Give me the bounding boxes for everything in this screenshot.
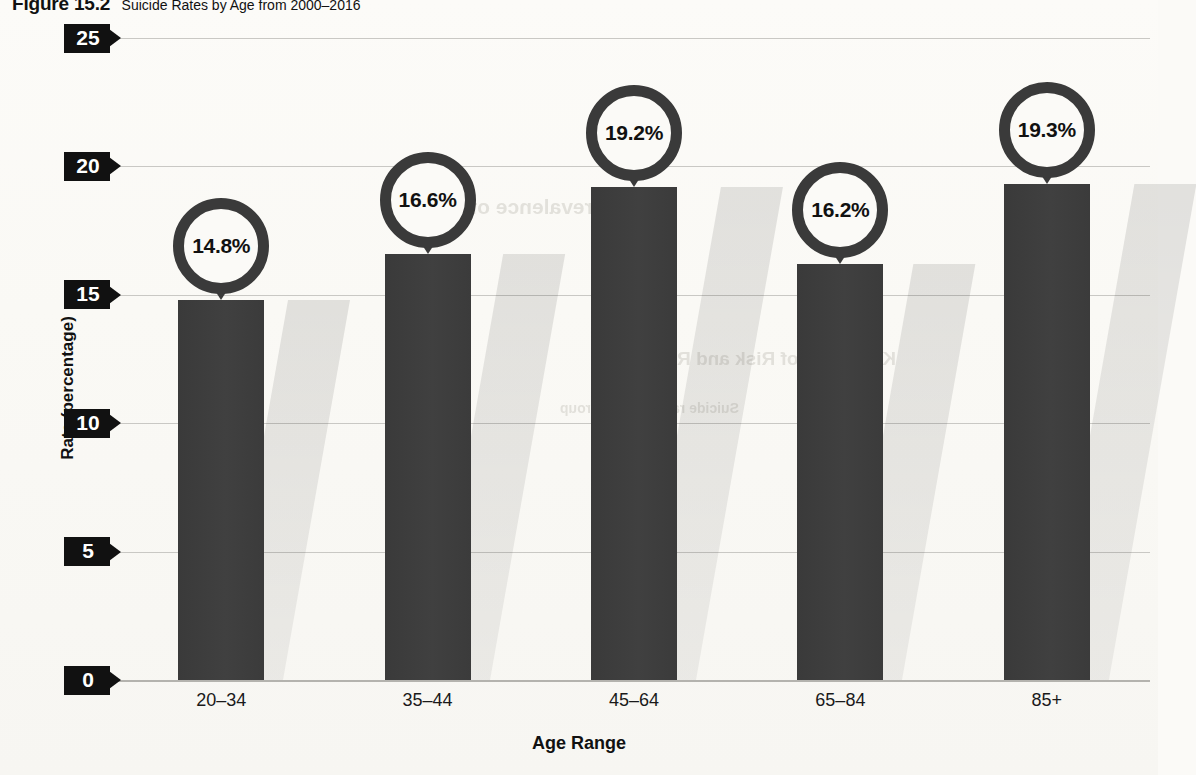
plot-area: 0510152025 14.8%16.6%19.2%16.2%19.3% (118, 38, 1150, 680)
x-axis-tick-label: 45–64 (531, 690, 737, 711)
data-label-pin: 19.2% (586, 85, 682, 181)
x-axis-tick-label: 65–84 (737, 690, 943, 711)
y-axis-tick-label: 20 (64, 152, 110, 181)
data-label-pin: 16.2% (792, 162, 888, 258)
y-axis-tick-label: 15 (64, 280, 110, 309)
bar-fill (1004, 184, 1090, 680)
x-axis-tick-label: 20–34 (118, 690, 324, 711)
y-axis-tick: 10 (64, 408, 110, 438)
data-label-pin: 14.8% (173, 198, 269, 294)
y-axis-tick-label: 10 (64, 409, 110, 438)
data-label-pin: 19.3% (999, 82, 1095, 178)
data-label-value: 16.6% (380, 152, 476, 248)
y-axis-tick: 15 (64, 280, 110, 310)
x-axis-tick-label: 85+ (944, 690, 1150, 711)
data-label-value: 19.3% (999, 82, 1095, 178)
bar-fill (591, 187, 677, 680)
bar (385, 254, 471, 680)
data-label-pin: 16.6% (380, 152, 476, 248)
y-axis-tick: 5 (64, 537, 110, 567)
y-axis-tick-label: 25 (64, 24, 110, 53)
x-axis-tick-label: 35–44 (324, 690, 530, 711)
bar-fill (797, 264, 883, 680)
data-label-value: 16.2% (792, 162, 888, 258)
bar (591, 187, 677, 680)
bar (178, 300, 264, 680)
gridline (118, 680, 1150, 682)
y-axis-tick: 0 (64, 665, 110, 695)
data-label-value: 19.2% (586, 85, 682, 181)
bar (1004, 184, 1090, 680)
bar-fill (385, 254, 471, 680)
bar-fill (178, 300, 264, 680)
x-axis-title: Age Range (0, 733, 1158, 754)
y-axis-tick: 25 (64, 23, 110, 53)
gridline (118, 38, 1150, 39)
bar (797, 264, 883, 680)
y-axis-tick-label: 0 (64, 666, 110, 695)
data-label-value: 14.8% (173, 198, 269, 294)
y-axis-tick-label: 5 (64, 537, 110, 566)
y-axis-tick: 20 (64, 151, 110, 181)
